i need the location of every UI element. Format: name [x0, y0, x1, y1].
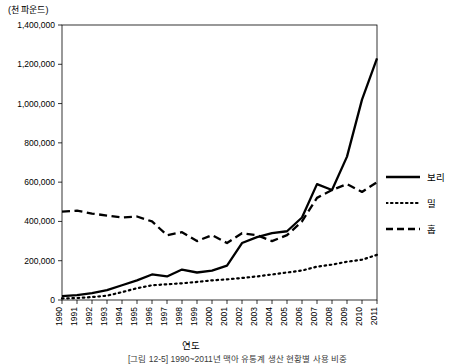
legend-key-solid: [386, 171, 420, 183]
svg-text:1,400,000: 1,400,000: [17, 20, 55, 30]
series-line-홉: [62, 182, 377, 243]
svg-text:1999: 1999: [189, 307, 199, 326]
svg-text:1995: 1995: [129, 307, 139, 326]
svg-text:1992: 1992: [84, 307, 94, 326]
svg-text:1,200,000: 1,200,000: [17, 59, 55, 69]
svg-text:1990: 1990: [54, 307, 64, 326]
svg-text:1998: 1998: [174, 307, 184, 326]
svg-text:0: 0: [50, 295, 55, 305]
svg-text:800,000: 800,000: [24, 138, 55, 148]
svg-text:600,000: 600,000: [24, 177, 55, 187]
svg-text:1,000,000: 1,000,000: [17, 99, 55, 109]
svg-text:2002: 2002: [234, 307, 244, 326]
svg-text:2006: 2006: [294, 307, 304, 326]
legend-item-wheat: 밀: [386, 190, 472, 216]
svg-text:2004: 2004: [264, 307, 274, 326]
svg-text:2003: 2003: [249, 307, 259, 326]
svg-text:400,000: 400,000: [24, 216, 55, 226]
svg-text:2011: 2011: [369, 307, 379, 326]
svg-text:1997: 1997: [159, 307, 169, 326]
figure-caption: [그림 12-5] 1990~2011년 맥아 유통계 생산 현황별 사용 비중: [0, 352, 475, 364]
legend-label-barley: 보리: [427, 170, 445, 184]
legend-label-wheat: 밀: [427, 196, 436, 210]
svg-text:2005: 2005: [279, 307, 289, 326]
y-tick-labels: 0200,000400,000600,000800,0001,000,0001,…: [17, 20, 55, 305]
svg-text:1991: 1991: [69, 307, 79, 326]
axis-lines: [58, 25, 377, 304]
legend-item-barley: 보리: [386, 164, 472, 190]
chart-legend: 보리 밀 홉: [386, 164, 472, 242]
x-axis-title: 연도: [182, 338, 200, 352]
svg-text:2009: 2009: [339, 307, 349, 326]
data-series-group: [62, 58, 377, 298]
legend-label-hops: 홉: [427, 222, 436, 236]
svg-text:2000: 2000: [204, 307, 214, 326]
svg-text:2007: 2007: [309, 307, 319, 326]
x-tick-labels: 1990199119921993199419951996199719981999…: [54, 307, 379, 326]
svg-text:2008: 2008: [324, 307, 334, 326]
svg-text:1993: 1993: [99, 307, 109, 326]
svg-text:2010: 2010: [354, 307, 364, 326]
legend-key-dotted: [386, 197, 420, 209]
series-line-보리: [62, 58, 377, 296]
svg-text:1996: 1996: [144, 307, 154, 326]
series-line-밀: [62, 255, 377, 299]
legend-item-hops: 홉: [386, 216, 472, 242]
svg-text:200,000: 200,000: [24, 256, 55, 266]
legend-key-dashed: [386, 223, 420, 235]
svg-text:2001: 2001: [219, 307, 229, 326]
svg-text:1994: 1994: [114, 307, 124, 326]
